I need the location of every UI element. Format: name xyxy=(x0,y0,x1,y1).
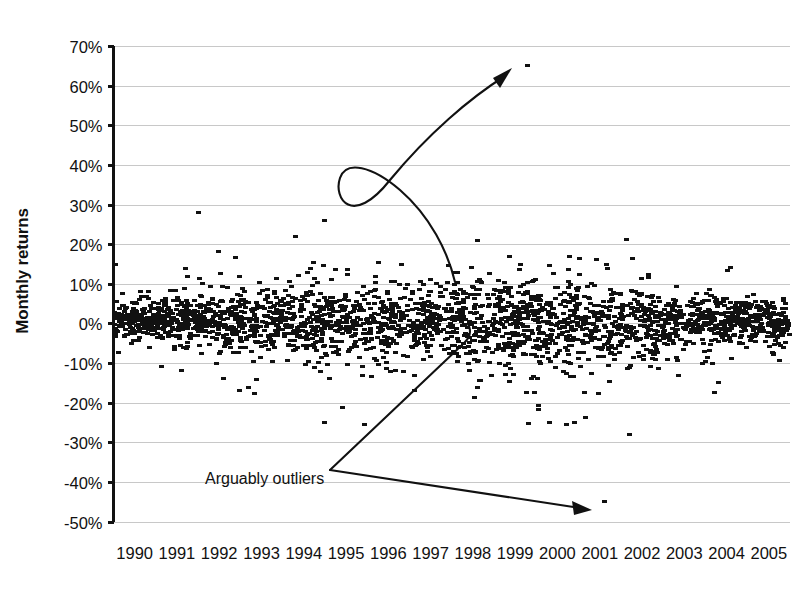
data-point xyxy=(339,304,344,307)
data-point xyxy=(285,359,290,362)
data-point xyxy=(703,360,708,363)
data-point xyxy=(490,333,495,336)
data-point xyxy=(168,309,173,312)
data-point xyxy=(260,289,265,292)
data-point xyxy=(310,284,315,287)
data-point xyxy=(653,333,658,336)
data-point xyxy=(286,303,291,306)
data-point xyxy=(516,308,521,311)
y-tick-label: 30% xyxy=(69,197,102,215)
data-point xyxy=(427,331,432,334)
data-point xyxy=(562,326,567,329)
data-point xyxy=(201,325,206,328)
data-point xyxy=(282,335,287,338)
data-point xyxy=(306,360,311,363)
data-point xyxy=(116,351,121,354)
data-point xyxy=(286,294,291,297)
y-tick-label: 20% xyxy=(69,236,102,254)
data-point xyxy=(115,317,120,320)
data-point xyxy=(469,266,474,269)
data-point xyxy=(267,338,272,341)
data-point xyxy=(372,302,377,305)
data-point xyxy=(553,342,558,345)
data-point xyxy=(627,433,632,436)
data-point xyxy=(112,335,117,338)
data-point xyxy=(291,344,296,347)
data-point xyxy=(324,354,329,357)
data-point xyxy=(558,293,563,296)
data-point xyxy=(315,281,320,284)
data-point xyxy=(445,281,450,284)
data-point xyxy=(139,313,144,316)
data-point xyxy=(503,286,508,289)
data-point xyxy=(581,323,586,326)
data-point xyxy=(410,324,415,327)
data-point xyxy=(357,356,362,359)
data-point xyxy=(477,330,482,333)
data-point xyxy=(565,349,570,352)
data-point xyxy=(346,299,351,302)
data-point xyxy=(481,336,486,339)
data-point xyxy=(231,305,236,308)
data-point xyxy=(467,369,472,372)
data-point xyxy=(654,337,659,340)
data-point xyxy=(184,347,189,350)
data-point xyxy=(646,307,651,310)
data-point xyxy=(735,315,740,318)
data-point xyxy=(271,305,276,308)
data-point xyxy=(656,367,661,370)
data-point xyxy=(637,355,642,358)
data-point xyxy=(162,304,167,307)
data-point xyxy=(624,238,629,241)
data-point xyxy=(521,305,526,308)
data-point xyxy=(404,314,409,317)
data-point xyxy=(775,335,780,338)
data-point xyxy=(243,346,248,349)
data-point xyxy=(710,362,715,365)
data-point xyxy=(596,304,601,307)
data-point xyxy=(495,297,500,300)
data-point xyxy=(608,288,613,291)
data-point xyxy=(274,277,279,280)
data-point xyxy=(596,392,601,395)
data-point xyxy=(651,300,656,303)
data-point xyxy=(653,345,658,348)
data-point xyxy=(521,333,526,336)
data-point xyxy=(507,255,512,258)
data-point xyxy=(266,348,271,351)
data-point xyxy=(585,322,590,325)
data-point xyxy=(525,64,530,67)
data-point xyxy=(673,331,678,334)
data-point xyxy=(585,285,590,288)
data-point xyxy=(787,333,792,336)
x-tick-label: 2000 xyxy=(539,544,576,562)
data-point xyxy=(538,316,543,319)
data-point xyxy=(572,421,577,424)
data-point xyxy=(545,351,550,354)
data-point xyxy=(620,309,625,312)
data-point xyxy=(288,339,293,342)
data-point xyxy=(592,284,597,287)
data-point xyxy=(781,299,786,302)
data-point xyxy=(695,323,700,326)
data-point xyxy=(641,344,646,347)
data-point xyxy=(216,326,221,329)
data-point xyxy=(630,257,635,260)
data-point xyxy=(225,286,230,289)
data-point xyxy=(596,329,601,332)
data-point xyxy=(278,316,283,319)
data-point xyxy=(499,317,504,320)
data-point xyxy=(171,334,176,337)
data-point xyxy=(564,423,569,426)
data-point xyxy=(387,298,392,301)
data-point xyxy=(146,297,151,300)
data-point xyxy=(353,340,358,343)
data-point xyxy=(707,349,712,352)
data-point xyxy=(547,421,552,424)
data-point xyxy=(617,351,622,354)
data-point xyxy=(479,281,484,284)
data-point xyxy=(216,305,221,308)
data-point xyxy=(218,317,223,320)
data-point xyxy=(141,319,146,322)
data-point xyxy=(711,328,716,331)
